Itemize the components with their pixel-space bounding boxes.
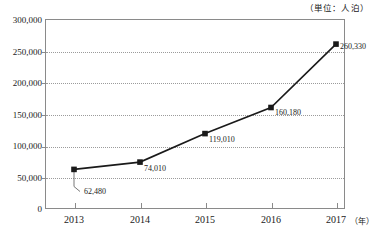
y-tick-100000 (42, 147, 46, 148)
value-label-2013: 62,480 (84, 187, 106, 196)
x-axis-label-2015: 2015 (195, 214, 215, 226)
x-axis-label-2014: 2014 (130, 214, 150, 226)
chart-container: （単位：人泊） 300,000 250,000 200,000 150,000 … (0, 0, 373, 234)
y-tick-250000 (42, 52, 46, 53)
x-axis-label-2013: 2013 (64, 214, 84, 226)
gridline-250000 (46, 52, 344, 53)
x-tick-2016 (272, 203, 273, 208)
y-tick-150000 (42, 115, 46, 116)
y-axis-label-150000: 150,000 (13, 110, 42, 120)
y-axis-label-100000: 100,000 (13, 141, 42, 151)
gridline-200000 (46, 83, 344, 84)
y-axis-label-0: 0 (38, 204, 43, 214)
y-axis-label-300000: 300,000 (13, 15, 42, 25)
gridline-100000 (46, 147, 344, 148)
x-axis-label-2016: 2016 (261, 214, 281, 226)
y-tick-200000 (42, 83, 46, 84)
value-label-2015: 119,010 (209, 135, 235, 144)
x-tick-2013 (75, 203, 76, 208)
x-tick-2015 (206, 203, 207, 208)
y-axis-label-50000: 50,000 (17, 173, 42, 183)
x-axis-label-2017: 2017 (326, 214, 346, 226)
value-label-2016: 160,180 (275, 108, 301, 117)
x-tick-2014 (141, 203, 142, 208)
value-label-2014: 74,010 (144, 164, 166, 173)
x-axis-unit-label: （年） (350, 216, 373, 228)
unit-caption: （単位：人泊） (305, 2, 369, 14)
y-tick-50000 (42, 178, 46, 179)
value-label-2017: 260,330 (340, 42, 366, 51)
gridline-50000 (46, 178, 344, 179)
y-axis-label-250000: 250,000 (13, 47, 42, 57)
x-tick-2017 (337, 203, 338, 208)
y-axis-label-200000: 200,000 (13, 78, 42, 88)
